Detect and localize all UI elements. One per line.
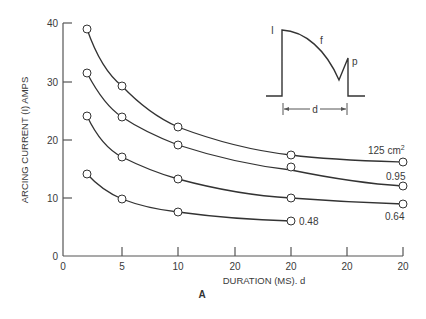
data-point	[399, 182, 407, 190]
x-tick: 20	[285, 261, 297, 272]
y-axis	[63, 23, 72, 256]
data-point	[287, 217, 295, 225]
inset-waveform: I f p d	[266, 25, 365, 115]
data-point	[174, 123, 182, 131]
x-tick: 0	[60, 261, 66, 272]
data-point	[287, 163, 295, 171]
x-tick: 20	[229, 261, 241, 272]
x-tick: 10	[172, 261, 184, 272]
x-tick: 5	[119, 261, 125, 272]
y-tick-10: 10	[47, 193, 59, 204]
x-tick-labels: 0 5 10 20 20 20 20	[60, 261, 409, 272]
y-tick-20: 20	[47, 135, 59, 146]
x-tick: 20	[341, 261, 353, 272]
data-point	[83, 25, 91, 33]
data-point	[83, 69, 91, 77]
data-point	[83, 170, 91, 178]
x-axis-title: DURATION (MS). d	[223, 275, 306, 286]
data-point	[174, 208, 182, 216]
data-point	[399, 158, 407, 166]
data-point	[118, 82, 126, 90]
y-axis-title: ARCING CURRENT (I) AMPS	[19, 77, 30, 204]
data-point	[174, 141, 182, 149]
curve-095	[87, 73, 403, 186]
inset-label-peak: I	[271, 25, 274, 36]
x-tick: 20	[397, 261, 409, 272]
arcing-current-chart: 40 30 20 10 0 0 5 10 20 20 20 20 DURATIO…	[0, 0, 426, 319]
series-label-064: 0.64	[385, 211, 405, 222]
panel-label: A	[198, 289, 205, 300]
series-label-125: 125 cm2	[368, 144, 405, 156]
curve-048	[87, 174, 291, 221]
data-point	[287, 151, 295, 159]
data-point	[118, 153, 126, 161]
y-tick-30: 30	[47, 77, 59, 88]
data-point	[174, 175, 182, 183]
data-point	[287, 194, 295, 202]
data-point	[83, 112, 91, 120]
data-point	[399, 200, 407, 208]
y-tick-labels: 40 30 20 10 0	[47, 18, 59, 262]
series-label-095: 0.95	[386, 171, 406, 182]
series-label-048: 0.48	[299, 216, 319, 227]
y-tick-0: 0	[52, 251, 58, 262]
x-axis	[63, 247, 403, 256]
data-point	[118, 195, 126, 203]
data-point	[118, 113, 126, 121]
inset-label-spike: p	[352, 56, 358, 67]
inset-label-duration: d	[312, 104, 318, 115]
y-tick-40: 40	[47, 18, 59, 29]
inset-label-fall: f	[320, 35, 323, 46]
data-markers	[83, 25, 407, 225]
